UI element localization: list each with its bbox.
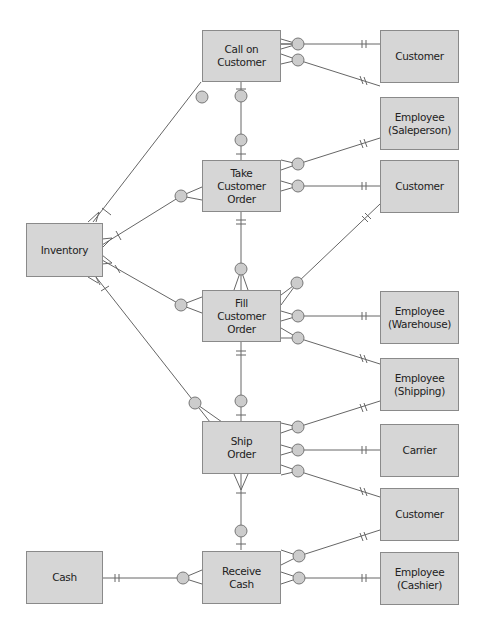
- event-take-customer-order: Take Customer Order: [202, 160, 281, 212]
- agent-employee-saleperson: Employee (Saleperson): [380, 97, 459, 150]
- agent-customer: Customer: [380, 160, 459, 213]
- agent-employee-shipping: Employee (Shipping): [380, 358, 459, 411]
- agent-customer: Customer: [380, 488, 459, 541]
- resource-inventory: Inventory: [26, 223, 103, 277]
- agent-employee-warehouse: Employee (Warehouse): [380, 291, 459, 344]
- agent-carrier: Carrier: [380, 424, 459, 477]
- event-fill-customer-order: Fill Customer Order: [202, 290, 281, 342]
- event-call-on-customer: Call on Customer: [202, 30, 281, 82]
- event-receive-cash: Receive Cash: [202, 551, 281, 604]
- agent-customer: Customer: [380, 30, 459, 83]
- event-ship-order: Ship Order: [202, 421, 281, 474]
- resource-cash: Cash: [26, 551, 103, 604]
- agent-employee-cashier: Employee (Cashier): [380, 552, 459, 605]
